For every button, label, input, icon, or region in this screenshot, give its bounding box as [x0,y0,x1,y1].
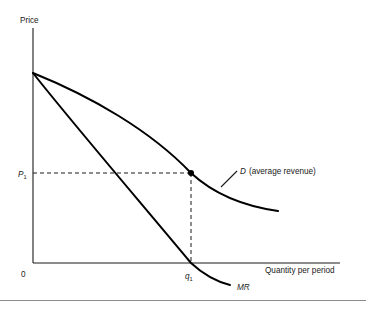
x-axis-label: Quantity per period [265,266,335,275]
demand-curve-label: D(average revenue) [240,167,316,176]
price-subscript: 1 [23,174,26,180]
demand-symbol: D [240,167,246,176]
demand-description: (average revenue) [249,167,316,176]
equilibrium-point-marker [188,170,194,176]
quantity-subscript: 1 [190,276,193,282]
origin-label: 0 [21,270,26,279]
y-axis-label: Price [20,16,39,25]
monopoly-demand-mr-chart: Price Quantity per period 0 P1 q1 D(aver… [0,0,366,311]
chart-background [0,0,366,311]
marginal-revenue-curve-label: MR [237,283,250,292]
economics-figure: Price Quantity per period 0 P1 q1 D(aver… [0,0,366,311]
